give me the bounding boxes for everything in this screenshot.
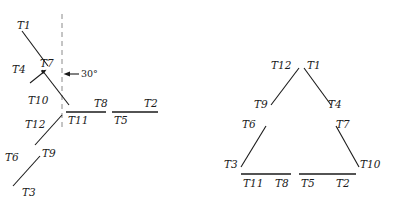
right-label-t9: T9: [254, 99, 268, 110]
right-label-t1: T1: [307, 60, 321, 71]
left-label-t5: T5: [114, 115, 128, 126]
left-label-t12: T12: [25, 119, 45, 130]
left-label-t2: T2: [144, 98, 158, 109]
right-label-t12: T12: [271, 60, 291, 71]
angle-annotation-label: 30°: [81, 69, 98, 79]
left-label-t9: T9: [42, 148, 56, 159]
right-label-t3: T3: [224, 159, 238, 170]
geometry-figure: T1 T4 T7 T10 T12 T9 T6 T3 T11 T8 T5 T2 3…: [0, 0, 394, 207]
right-label-t11: T11: [243, 178, 263, 189]
right-label-t5: T5: [301, 178, 315, 189]
left-label-t7: T7: [40, 58, 54, 69]
triangle-segment-t12-t9: [271, 68, 299, 105]
right-label-t6: T6: [242, 119, 256, 130]
left-label-t6: T6: [5, 152, 19, 163]
triangle-segment-t7-t10: [336, 126, 359, 167]
triangle-segment-t6-t3: [241, 126, 266, 167]
left-label-t4: T4: [12, 64, 26, 75]
left-label-t11: T11: [68, 115, 88, 126]
left-label-t1: T1: [17, 20, 31, 31]
triangle-segment-t1-t4: [304, 68, 331, 105]
right-label-t2: T2: [336, 178, 350, 189]
left-label-t10: T10: [28, 95, 48, 106]
angle-arrow-head: [64, 71, 71, 76]
left-label-t3: T3: [22, 187, 36, 198]
right-label-t8: T8: [275, 178, 289, 189]
right-label-t4: T4: [328, 99, 342, 110]
right-label-t10: T10: [360, 159, 380, 170]
left-label-t8: T8: [94, 98, 108, 109]
right-label-t7: T7: [336, 119, 350, 130]
